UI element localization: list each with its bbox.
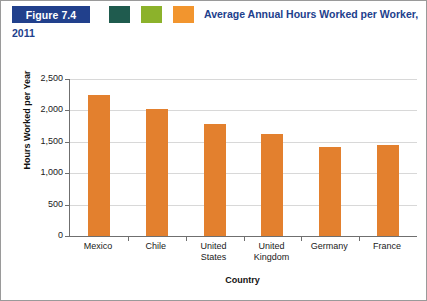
x-axis-tick-labels: MexicoChileUnitedStatesUnitedKingdomGerm… <box>69 241 416 277</box>
y-axis-tick <box>65 110 70 111</box>
chart-region: Hours Worked per Year 05001,0001,5002,00… <box>1 53 427 301</box>
y-axis-tick-label: 500 <box>19 199 63 209</box>
bar-mexico <box>88 95 110 236</box>
y-axis-tick <box>65 173 70 174</box>
bar-united-states <box>204 124 226 236</box>
bar-france <box>377 145 399 236</box>
y-axis-tick-label: 2,500 <box>19 73 63 83</box>
y-axis-tick <box>65 205 70 206</box>
figure-title: Average Annual Hours Worked per Worker, … <box>12 5 422 43</box>
figure-frame: Figure 7.4 Average Annual Hours Worked p… <box>0 0 427 301</box>
y-axis-tick <box>65 142 70 143</box>
y-axis-tick-labels: 05001,0001,5002,0002,500 <box>15 79 63 236</box>
bar-germany <box>319 147 341 236</box>
bar-united-kingdom <box>261 134 283 236</box>
x-axis-tick-label: Chile <box>125 241 187 252</box>
x-axis-tick-label: UnitedStates <box>183 241 245 263</box>
gridline <box>70 79 417 80</box>
x-axis-tick-label: France <box>356 241 418 252</box>
gridline <box>70 110 417 111</box>
plot-area <box>69 79 417 237</box>
gridline <box>70 205 417 206</box>
x-axis-tick-label: UnitedKingdom <box>240 241 302 263</box>
y-axis-tick <box>65 236 70 237</box>
x-axis-tick-label: Germany <box>298 241 360 252</box>
x-axis-tick-label: Mexico <box>67 241 129 252</box>
x-axis-title: Country <box>69 275 416 285</box>
y-axis-tick-label: 2,000 <box>19 104 63 114</box>
gridline <box>70 142 417 143</box>
y-axis-tick-label: 0 <box>19 230 63 240</box>
y-axis-tick-label: 1,000 <box>19 167 63 177</box>
bar-chile <box>146 109 168 236</box>
figure-header: Figure 7.4 Average Annual Hours Worked p… <box>1 1 427 53</box>
gridline <box>70 173 417 174</box>
y-axis-tick <box>65 79 70 80</box>
y-axis-tick-label: 1,500 <box>19 136 63 146</box>
